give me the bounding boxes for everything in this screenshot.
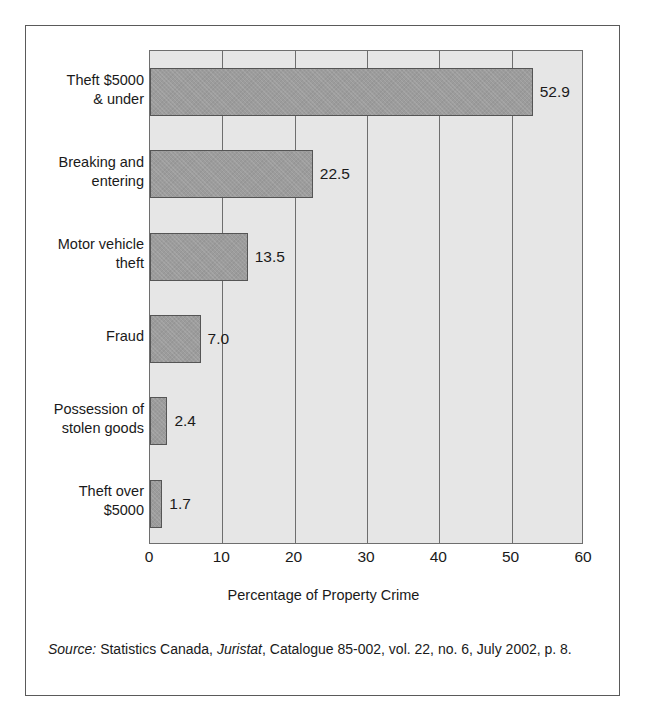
bar-value-theft-5000-under: 52.9 xyxy=(533,68,570,116)
gridline-10 xyxy=(222,51,223,543)
source-note: Source: Statistics Canada, Juristat, Cat… xyxy=(48,639,588,660)
bar-theft-over-5000[interactable] xyxy=(150,480,162,528)
gridline-50 xyxy=(512,51,513,543)
plot-area: 52.9 22.5 13.5 7.0 xyxy=(149,50,583,544)
x-axis-ticks: 0 10 20 30 40 50 60 xyxy=(149,548,583,572)
x-tick-50: 50 xyxy=(502,548,519,566)
category-label-possession-of-stolen-goods: Possession of stolen goods xyxy=(26,400,144,438)
x-tick-20: 20 xyxy=(285,548,302,566)
source-rest: , Catalogue 85-002, vol. 22, no. 6, July… xyxy=(262,641,572,657)
category-label-motor-vehicle-theft: Motor vehicle theft xyxy=(26,235,144,273)
bar-value-motor-vehicle-theft: 13.5 xyxy=(248,233,285,281)
category-label-theft-over-5000: Theft over $5000 xyxy=(26,482,144,520)
bar-value-fraud: 7.0 xyxy=(201,315,230,363)
bar-chart: Theft $5000 & under Breaking and enterin… xyxy=(26,26,621,586)
source-publisher: Statistics Canada, xyxy=(100,641,213,657)
category-label-fraud: Fraud xyxy=(26,327,144,346)
bar-value-breaking-and-entering: 22.5 xyxy=(313,150,350,198)
bar-breaking-and-entering[interactable] xyxy=(150,150,313,198)
bar-motor-vehicle-theft[interactable] xyxy=(150,233,248,281)
gridline-40 xyxy=(439,51,440,543)
gridline-30 xyxy=(367,51,368,543)
bar-fraud[interactable] xyxy=(150,315,201,363)
source-label: Source: xyxy=(48,641,96,657)
x-tick-30: 30 xyxy=(357,548,374,566)
figure-frame: Theft $5000 & under Breaking and enterin… xyxy=(25,25,620,696)
bar-theft-5000-under[interactable] xyxy=(150,68,533,116)
x-tick-60: 60 xyxy=(574,548,591,566)
plot-inner: 52.9 22.5 13.5 7.0 xyxy=(150,51,582,543)
bar-possession-of-stolen-goods[interactable] xyxy=(150,397,167,445)
x-axis-title: Percentage of Property Crime xyxy=(26,587,621,603)
gridline-20 xyxy=(295,51,296,543)
category-label-breaking-and-entering: Breaking and entering xyxy=(26,153,144,191)
x-tick-10: 10 xyxy=(213,548,230,566)
category-label-theft-5000-under: Theft $5000 & under xyxy=(26,71,144,109)
x-tick-0: 0 xyxy=(145,548,154,566)
bar-value-theft-over-5000: 1.7 xyxy=(162,480,191,528)
source-publication: Juristat xyxy=(217,641,262,657)
x-tick-40: 40 xyxy=(430,548,447,566)
bar-value-possession-of-stolen-goods: 2.4 xyxy=(167,397,196,445)
category-axis-labels: Theft $5000 & under Breaking and enterin… xyxy=(26,50,144,544)
figure-container: Theft $5000 & under Breaking and enterin… xyxy=(0,0,647,725)
